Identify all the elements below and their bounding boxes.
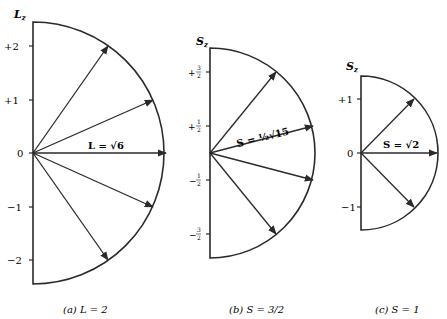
tick-label-b-plus1half: + 1 2: [188, 118, 201, 133]
tick-label-c-minus1: −1: [341, 202, 356, 213]
vector-m-minus2: [33, 153, 108, 260]
svg-text:2: 2: [197, 180, 201, 187]
vector-m-minus1half: [210, 153, 313, 180]
tick-label-b-plus3half: + 3 2: [188, 64, 201, 79]
axis-label-b: Sz: [196, 35, 209, 49]
svg-text:1: 1: [197, 118, 201, 125]
semicircle-b: [210, 48, 315, 258]
tick-label-c-plus1: +1: [338, 94, 353, 105]
svg-text:−: −: [189, 230, 197, 240]
svg-text:2: 2: [197, 72, 201, 79]
tick-label-a-minus1: −1: [7, 202, 22, 213]
axis-label-c: Sz: [346, 60, 359, 74]
panel-c: Sz +1 0 −1 S = √2 (c) S = 1: [338, 60, 438, 315]
caption-a: (a) L = 2: [63, 304, 108, 315]
vector-m-minus3half: [210, 153, 276, 234]
diagram-canvas: Lz +2 +1 0 −1 −2 L = √6 (a) L = 2 Sz +: [0, 0, 447, 319]
caption-c: (c) S = 1: [375, 304, 420, 315]
vectors-c: [361, 99, 437, 207]
tick-label-a-minus2: −2: [7, 255, 22, 266]
axis-label-a: Lz: [13, 8, 27, 22]
svg-text:2: 2: [197, 234, 201, 241]
vector-m-minus1: [33, 153, 153, 207]
svg-text:+: +: [188, 68, 196, 78]
tick-label-b-minus3half: − 3 2: [189, 226, 201, 241]
svg-text:2: 2: [197, 126, 201, 133]
caption-b: (b) S = 3/2: [229, 304, 284, 315]
vector-m-minus1: [361, 153, 414, 207]
tick-label-c-0: 0: [347, 148, 353, 159]
tick-label-b-minus1half: − 1 2: [189, 172, 201, 187]
svg-text:1: 1: [197, 172, 201, 179]
svg-text:+: +: [188, 122, 196, 132]
svg-text:3: 3: [197, 226, 201, 233]
panel-b: Sz + 3 2 + 1 2 − 1 2 − 3 2 S = ½√15 (b) …: [188, 35, 315, 315]
tick-label-a-plus2: +2: [4, 41, 19, 52]
svg-text:−: −: [189, 176, 197, 186]
vectors-a: [33, 46, 166, 260]
vector-label-c: S = √2: [383, 139, 419, 150]
tick-label-a-0: 0: [17, 148, 23, 159]
vector-label-b: S = ½√15: [235, 126, 290, 150]
tick-label-a-plus1: +1: [4, 95, 19, 106]
panel-a: Lz +2 +1 0 −1 −2 L = √6 (a) L = 2: [4, 8, 166, 315]
svg-text:3: 3: [197, 64, 201, 71]
vector-label-a: L = √6: [88, 140, 124, 151]
